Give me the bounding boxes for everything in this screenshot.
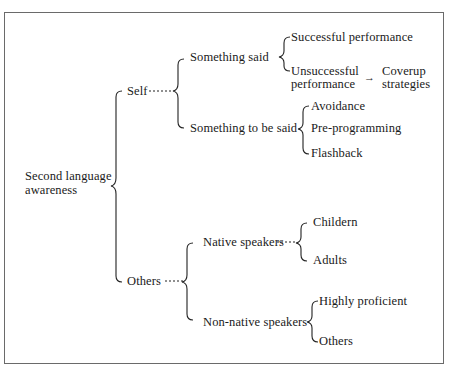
something-to-be-said-label: Something to be said (190, 121, 297, 135)
others-brace (182, 243, 193, 320)
root-label-line1: Second language (25, 169, 112, 183)
native-speakers-label: Native speakers (203, 235, 284, 249)
non-native-speakers-brace (307, 301, 318, 342)
coverup-label-line1: Coverup (382, 64, 426, 78)
self-label: Self (127, 84, 148, 98)
others-sub-label: Others (319, 334, 353, 348)
unsuccessful-label-line2: performance (291, 77, 355, 91)
highly-proficient-label: Highly proficient (319, 294, 407, 308)
childern-label: Childern (313, 215, 358, 229)
coverup-label-line2: strategies (382, 77, 430, 91)
avoidance-label: Avoidance (311, 99, 365, 113)
unsuccessful-label-line1: Unsuccessful (291, 64, 359, 78)
native-speakers-brace (296, 223, 307, 261)
flashback-label: Flashback (311, 146, 363, 160)
root-label-line2: awareness (25, 183, 77, 197)
non-native-speakers-label: Non-native speakers (203, 315, 307, 329)
others-label: Others (127, 274, 161, 288)
something-said-label: Something said (190, 50, 269, 64)
successful-performance-label: Successful performance (291, 30, 413, 44)
something-to-be-said-brace (298, 106, 309, 154)
pre-programming-label: Pre-programming (311, 121, 401, 135)
self-brace (173, 59, 184, 128)
arrow-right-icon: → (364, 70, 375, 84)
something-said-brace (279, 37, 290, 71)
root-brace (111, 91, 122, 282)
adults-label: Adults (313, 253, 347, 267)
